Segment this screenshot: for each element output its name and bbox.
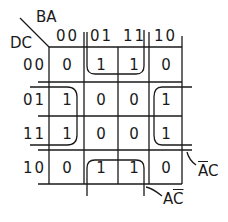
- col-header-00: 00: [56, 29, 79, 44]
- cell-10-11: 1: [117, 161, 151, 176]
- row-header-10: 10: [23, 161, 46, 176]
- cell-11-11: 0: [117, 127, 151, 142]
- col-header-11: 11: [123, 29, 146, 44]
- cell-11-10: 1: [149, 127, 183, 142]
- col-header-01: 01: [90, 29, 113, 44]
- col-header-10: 10: [154, 29, 177, 44]
- cell-10-00: 0: [50, 161, 84, 176]
- cell-00-01: 1: [84, 58, 118, 73]
- cell-00-11: 1: [117, 58, 151, 73]
- cell-01-00: 1: [50, 93, 84, 108]
- row-header-11: 11: [23, 127, 46, 142]
- row-header-00: 00: [23, 58, 46, 73]
- cell-00-00: 0: [50, 58, 84, 73]
- cell-11-00: 1: [50, 127, 84, 142]
- row-var-label: DC: [10, 36, 32, 51]
- cell-01-01: 0: [84, 93, 118, 108]
- term-label-a-c-not: AC: [163, 192, 183, 207]
- cell-01-10: 1: [149, 93, 183, 108]
- col-var-label: BA: [36, 10, 57, 25]
- cell-10-01: 1: [84, 161, 118, 176]
- term-label-a-not-c: AC: [198, 164, 218, 179]
- kmap-grid-lines: [0, 0, 228, 222]
- cell-10-10: 0: [149, 161, 183, 176]
- cell-01-11: 0: [117, 93, 151, 108]
- row-header-01: 01: [23, 93, 46, 108]
- cell-11-01: 0: [84, 127, 118, 142]
- cell-00-10: 0: [149, 58, 183, 73]
